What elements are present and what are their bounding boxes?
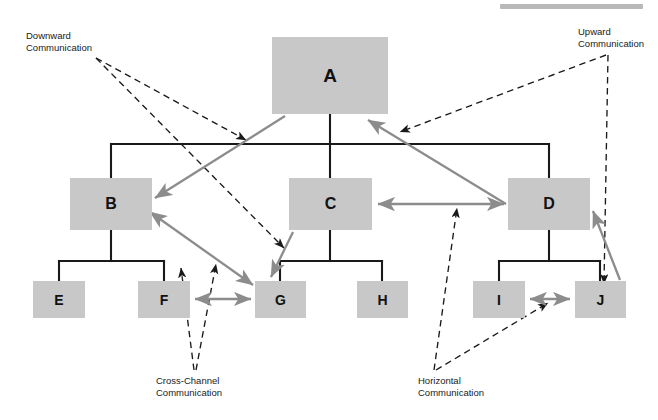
leader-downward-1	[96, 58, 246, 140]
node-box-h[interactable]: H	[357, 281, 408, 318]
node-box-b[interactable]: B	[70, 178, 152, 230]
node-box-g[interactable]: G	[255, 281, 306, 318]
node-label-h: H	[377, 293, 387, 307]
node-label-b: B	[105, 196, 117, 212]
node-box-i[interactable]: I	[473, 281, 525, 318]
leader-cross-2	[196, 264, 216, 370]
leader-horizontal-1	[434, 208, 457, 370]
label-upward-communication: Upward Communication	[578, 26, 644, 50]
node-label-c: C	[325, 196, 337, 212]
node-label-a: A	[323, 66, 337, 85]
node-label-f: F	[160, 293, 169, 307]
node-label-j: J	[597, 293, 605, 307]
node-box-j[interactable]: J	[575, 281, 626, 318]
leader-upward-1	[400, 55, 606, 132]
arrow-upward-j-to-d	[593, 211, 620, 280]
arrow-upward-d-to-a	[368, 120, 506, 204]
node-box-e[interactable]: E	[33, 281, 85, 318]
label-cross-channel-communication: Cross-Channel Communication	[156, 375, 222, 399]
node-label-e: E	[54, 293, 63, 307]
label-downward-communication: Downward Communication	[26, 30, 92, 54]
node-box-a[interactable]: A	[272, 37, 388, 114]
node-label-g: G	[275, 293, 286, 307]
arrow-downward-a-to-b	[155, 116, 285, 198]
diagram-canvas: ABCDEFGHIJ Downward CommunicationUpward …	[0, 0, 658, 420]
arrow-downward-b-to-g	[150, 212, 253, 285]
label-horizontal-communication: Horizontal Communication	[418, 375, 484, 399]
node-label-d: D	[543, 196, 555, 212]
node-label-i: I	[497, 293, 501, 307]
node-box-c[interactable]: C	[289, 178, 372, 230]
node-box-d[interactable]: D	[508, 178, 590, 230]
node-box-f[interactable]: F	[138, 281, 190, 318]
